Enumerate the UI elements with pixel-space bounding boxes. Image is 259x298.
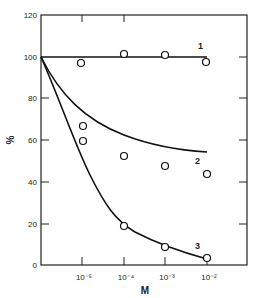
x-tick-labels: 10⁻⁵ 10⁻⁴ 10⁻³ 10⁻² <box>76 273 217 282</box>
y-tick-80: 80 <box>28 94 37 103</box>
x-axis-label: M <box>141 285 149 296</box>
y-tick-0: 0 <box>33 261 38 270</box>
x-tick-1: 10⁻⁵ <box>76 273 92 282</box>
x-tick-2: 10⁻⁴ <box>118 273 135 282</box>
y-axis <box>41 57 247 224</box>
chart: 0 20 40 60 80 100 120 % 10⁻⁵ 10⁻⁴ 10⁻³ 1… <box>0 0 259 298</box>
y-tick-40: 40 <box>28 178 37 187</box>
y-tick-20: 20 <box>28 220 37 229</box>
plot-frame <box>41 15 247 265</box>
y-tick-100: 100 <box>24 53 38 62</box>
x-tick-4: 10⁻² <box>201 273 217 282</box>
y-tick-60: 60 <box>28 136 37 145</box>
x-tick-3: 10⁻³ <box>159 273 175 282</box>
y-tick-labels: 0 20 40 60 80 100 120 <box>24 11 38 270</box>
series-3-label: 3 <box>195 241 200 251</box>
x-axis-ticks <box>82 15 207 265</box>
y-axis-label: % <box>5 135 16 144</box>
series-1-label: 1 <box>198 41 203 51</box>
series-2-label: 2 <box>195 156 200 166</box>
y-tick-120: 120 <box>24 11 38 20</box>
series-3-markers <box>80 138 211 262</box>
series-1-markers <box>78 51 210 67</box>
series-2-curve <box>41 57 207 152</box>
